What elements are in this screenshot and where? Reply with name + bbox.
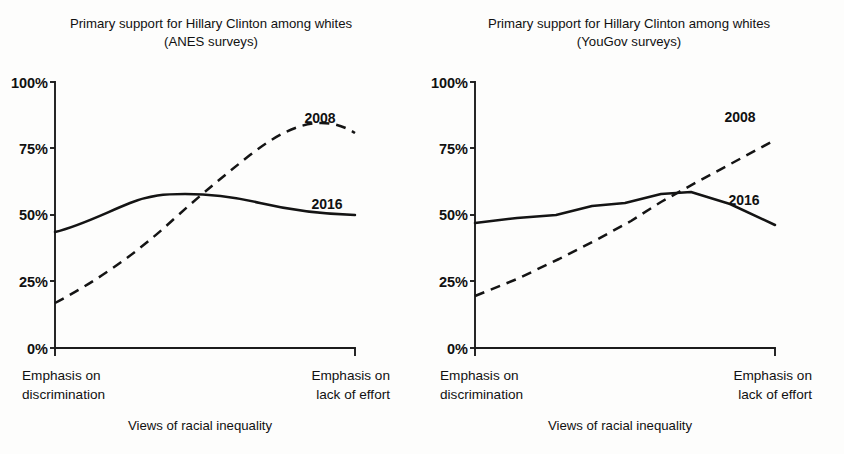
chart-title-line1: Primary support for Hillary Clinton amon… bbox=[488, 16, 771, 31]
x-left-label-line1: Emphasis on bbox=[22, 368, 101, 383]
figure-root: Primary support for Hillary Clinton amon… bbox=[0, 0, 844, 454]
series-label-2008: 2008 bbox=[724, 109, 755, 125]
chart-svg-yougov: Primary support for Hillary Clinton amon… bbox=[422, 0, 844, 454]
chart-title-line2: (ANES surveys) bbox=[164, 34, 258, 49]
y-tick-label-50: 50% bbox=[19, 207, 48, 223]
y-tick-label-100: 100% bbox=[431, 75, 468, 91]
series-line-2016 bbox=[55, 194, 355, 232]
y-tick-label-100: 100% bbox=[11, 75, 48, 91]
y-tick-label-25: 25% bbox=[439, 274, 468, 290]
chart-panel-yougov: Primary support for Hillary Clinton amon… bbox=[422, 0, 844, 454]
y-tick-label-50: 50% bbox=[439, 207, 468, 223]
x-right-label-line1: Emphasis on bbox=[733, 368, 812, 383]
y-tick-label-25: 25% bbox=[19, 274, 48, 290]
x-left-label-line2: discrimination bbox=[22, 387, 105, 402]
x-left-label-line2: discrimination bbox=[440, 387, 523, 402]
x-axis-title: Views of racial inequality bbox=[548, 418, 693, 433]
panel-container: Primary support for Hillary Clinton amon… bbox=[0, 0, 844, 454]
x-right-label-line2: lack of effort bbox=[738, 387, 812, 402]
chart-title-line1: Primary support for Hillary Clinton amon… bbox=[70, 16, 353, 31]
series-label-2016: 2016 bbox=[728, 192, 759, 208]
chart-svg-anes: Primary support for Hillary Clinton amon… bbox=[0, 0, 422, 454]
y-tick-label-75: 75% bbox=[19, 141, 48, 157]
chart-panel-anes: Primary support for Hillary Clinton amon… bbox=[0, 0, 422, 454]
y-tick-label-75: 75% bbox=[439, 141, 468, 157]
series-label-2008: 2008 bbox=[304, 110, 335, 126]
x-left-label-line1: Emphasis on bbox=[440, 368, 519, 383]
y-tick-label-0: 0% bbox=[447, 341, 468, 357]
x-right-label-line1: Emphasis on bbox=[311, 368, 390, 383]
series-label-2016: 2016 bbox=[311, 196, 342, 212]
y-tick-label-0: 0% bbox=[27, 341, 48, 357]
chart-title-line2: (YouGov surveys) bbox=[577, 34, 681, 49]
x-axis-title: Views of racial inequality bbox=[128, 418, 273, 433]
x-right-label-line2: lack of effort bbox=[316, 387, 390, 402]
